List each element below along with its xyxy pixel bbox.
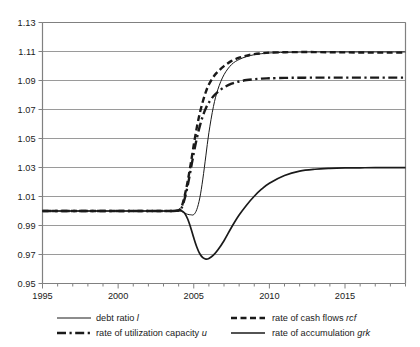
legend-label-rcf: rate of cash flows rcf <box>272 313 358 323</box>
y-tick-label: 1.11 <box>18 47 35 57</box>
x-tick-label: 2010 <box>259 291 279 301</box>
y-tick-label: 1.09 <box>18 76 36 86</box>
legend-label-l: debt ratio l <box>96 313 140 323</box>
legend-label-prefix: rate of accumulation <box>272 328 357 338</box>
x-tick-label: 2005 <box>184 291 204 301</box>
legend-label-u: rate of utilization capacity u <box>96 328 207 338</box>
y-tick-label: 1.13 <box>18 18 36 28</box>
legend-label-symbol: rcf <box>346 313 358 323</box>
x-tick-label: 2015 <box>335 291 355 301</box>
x-tick-label: 1995 <box>32 291 52 301</box>
x-tick-label: 2000 <box>108 291 128 301</box>
legend-label-symbol: grk <box>357 328 370 338</box>
y-tick-label: 0.99 <box>18 221 36 231</box>
y-tick-label: 1.01 <box>18 192 36 202</box>
legend-label-symbol: u <box>202 328 207 338</box>
legend-label-prefix: rate of utilization capacity <box>96 328 202 338</box>
y-tick-label: 0.97 <box>18 250 36 260</box>
y-tick-label: 1.03 <box>18 163 36 173</box>
chart-figure: 0.950.970.991.011.031.051.071.091.111.13… <box>0 0 420 347</box>
legend-label-prefix: rate of cash flows <box>272 313 346 323</box>
line-chart: 0.950.970.991.011.031.051.071.091.111.13… <box>0 0 420 347</box>
legend-label-grk: rate of accumulation grk <box>272 328 370 338</box>
y-tick-label: 1.05 <box>18 134 36 144</box>
y-tick-label: 0.95 <box>18 279 36 289</box>
y-tick-label: 1.07 <box>18 105 36 115</box>
legend-label-prefix: debt ratio <box>96 313 137 323</box>
